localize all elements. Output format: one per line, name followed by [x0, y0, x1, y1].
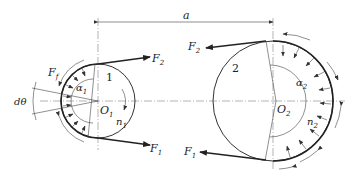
- large-pulley: 2 O2 n2 α2: [200, 34, 341, 169]
- friction-ff-label: Ff: [47, 66, 60, 81]
- pressure-arrows-small: [63, 68, 85, 133]
- wrap-angle-alpha1-label: α1: [76, 82, 87, 96]
- force-f2-left-label: F2: [151, 52, 165, 67]
- center-o1-label: O1: [100, 104, 114, 119]
- force-f1-left-label: F1: [149, 142, 162, 157]
- force-f1-right-label: F1: [183, 145, 196, 160]
- speed-n2-label: n2: [307, 116, 318, 130]
- belt-drive-diagram: a 1 O1 n1: [0, 0, 357, 179]
- pulley-2-number: 2: [232, 62, 239, 75]
- dtheta-label: dθ: [14, 96, 26, 107]
- speed-n1-label: n1: [116, 116, 127, 130]
- center-distance-dimension: a: [98, 9, 273, 22]
- center-o2-label: O2: [277, 103, 291, 118]
- dimension-a-label: a: [183, 9, 190, 22]
- force-f2-right-label: F2: [187, 40, 201, 55]
- pulley-1-number: 1: [106, 71, 113, 84]
- wrap-angle-alpha2-label: α2: [296, 77, 308, 91]
